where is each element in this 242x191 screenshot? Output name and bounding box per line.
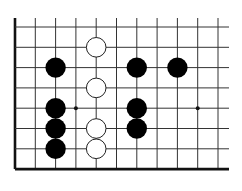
black-stone: [45, 57, 65, 77]
white-stone: [86, 119, 106, 139]
white-stone: [86, 139, 106, 159]
black-stone: [167, 57, 187, 77]
go-board: [0, 0, 242, 191]
black-stone: [127, 57, 147, 77]
black-stone: [45, 118, 65, 138]
black-stone: [45, 139, 65, 159]
black-stone: [45, 98, 65, 118]
black-stone: [127, 118, 147, 138]
white-stone: [86, 38, 106, 58]
star-point: [74, 106, 78, 110]
white-stone: [86, 78, 106, 98]
star-point: [196, 106, 200, 110]
black-stone: [127, 98, 147, 118]
